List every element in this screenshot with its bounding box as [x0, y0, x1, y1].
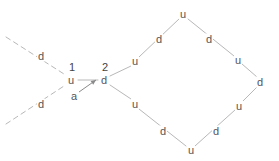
n-diamond-right-d: d	[256, 77, 264, 88]
n-upper-left-d: d	[37, 51, 45, 62]
arrow-label-a: a	[70, 91, 78, 102]
graph-edge	[6, 86, 64, 124]
graph-edge	[243, 87, 257, 101]
n-diamond-right-lower-u: u	[235, 101, 243, 112]
n-diamond-bottom-right-d: d	[212, 126, 220, 137]
idx-1: 1	[68, 62, 76, 73]
n-lower-left-d: d	[37, 99, 45, 110]
arrow-head-icon	[91, 80, 96, 85]
directed-arrow-group	[79, 80, 96, 92]
n-diamond-top-left-d: d	[155, 34, 163, 45]
n-diamond-top-u: u	[179, 9, 187, 20]
graph-edge	[110, 66, 131, 76]
n-diamond-bottom-left-d: d	[159, 126, 167, 137]
n-diamond-bottom-u: u	[187, 145, 195, 156]
n-diamond-right-upper-u: u	[234, 55, 242, 66]
graph-edge	[242, 64, 257, 77]
n-center-u: u	[67, 75, 75, 86]
n-center-d: d	[100, 75, 108, 86]
idx-2: 2	[101, 62, 109, 73]
graph-edge	[6, 37, 64, 74]
graph-edge	[110, 85, 131, 99]
graph-edges-canvas	[0, 0, 279, 161]
graph-diagram: udddudududududu12a	[0, 0, 279, 161]
n-diamond-left-lower-u: u	[131, 99, 139, 110]
n-diamond-top-right-d: d	[205, 34, 213, 45]
n-diamond-left-upper-u: u	[131, 56, 139, 67]
